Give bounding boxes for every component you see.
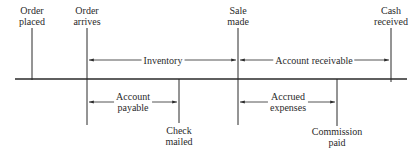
event-label-order-arrives: Order arrives <box>73 5 100 27</box>
event-label-line: paid <box>312 137 363 148</box>
event-label-line: Check <box>165 125 192 136</box>
event-label-check-mailed: Check mailed <box>165 125 192 147</box>
event-label-line: Order <box>73 5 100 16</box>
event-label-line: Cash <box>374 5 408 16</box>
event-label-line: arrives <box>73 16 100 27</box>
event-label-line: received <box>374 16 408 27</box>
event-label-order-placed: Order placed <box>19 5 45 27</box>
event-label-line: Sale <box>227 5 249 16</box>
event-label-commission-paid: Commission paid <box>312 126 363 148</box>
span-label-line: expenses <box>270 102 306 113</box>
event-label-sale-made: Sale made <box>227 5 249 27</box>
span-label-account-receivable: Account receivable <box>273 55 354 66</box>
span-label-line: Account <box>116 91 150 102</box>
event-label-line: Commission <box>312 126 363 137</box>
span-label-line: payable <box>116 102 150 113</box>
event-label-cash-received: Cash received <box>374 5 408 27</box>
event-label-line: mailed <box>165 136 192 147</box>
span-label-line: Accrued <box>270 91 306 102</box>
span-label-account-payable: Account payable <box>114 91 152 113</box>
span-label-inventory: Inventory <box>142 55 185 66</box>
timeline-diagram: Order placed Order arrives Sale made Cas… <box>0 0 419 150</box>
span-label-accrued-expenses: Accrued expenses <box>268 91 308 113</box>
event-label-line: made <box>227 16 249 27</box>
event-label-line: placed <box>19 16 45 27</box>
event-label-line: Order <box>19 5 45 16</box>
